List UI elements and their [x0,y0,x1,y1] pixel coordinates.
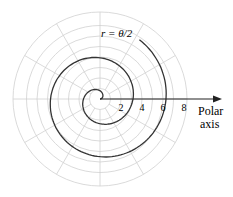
equation-label: r = θ/2 [101,27,133,39]
tick-label-8: 8 [182,102,187,113]
polar-spiral-diagram: 2 4 6 8 Polar axis r = θ/2 [0,0,233,197]
tick-label-6: 6 [161,102,166,113]
axis-label: Polar [198,104,223,118]
tick-label-2: 2 [119,102,124,113]
axis-label-2: axis [200,117,220,131]
arrowhead-icon [213,96,222,103]
tick-label-4: 4 [140,102,145,113]
